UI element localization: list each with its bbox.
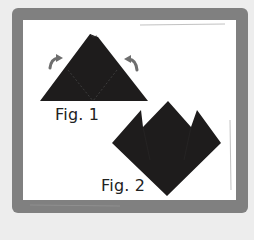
curved-arrow-left-icon: [50, 54, 63, 68]
fig1-label: Fig. 1: [55, 105, 99, 124]
fig2-label: Fig. 2: [101, 176, 145, 195]
curved-arrow-right-icon: [124, 55, 137, 70]
fig1-folded-triangle: [40, 34, 148, 101]
